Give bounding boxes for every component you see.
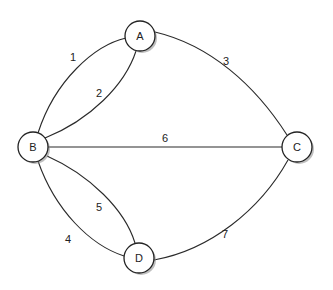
edge-7 [154, 160, 288, 260]
node-d-label: D [135, 252, 143, 264]
graph-diagram: 1 2 3 4 5 6 7 A B C D [0, 0, 333, 290]
edge-label-4: 4 [65, 233, 71, 245]
node-b-label: B [29, 141, 36, 153]
edge-label-5: 5 [96, 201, 102, 213]
node-a-label: A [136, 30, 144, 42]
edge-5 [47, 156, 135, 243]
edge-label-3: 3 [223, 55, 229, 67]
node-c: C [282, 132, 314, 164]
edge-1 [38, 38, 126, 133]
node-b: B [18, 132, 50, 164]
node-a: A [125, 21, 157, 53]
edge-label-2: 2 [96, 87, 102, 99]
edge-2 [45, 51, 136, 138]
edge-label-6: 6 [162, 132, 168, 144]
edge-label-1: 1 [70, 51, 76, 63]
node-d: D [124, 243, 156, 275]
node-c-label: C [293, 141, 301, 153]
edge-label-7: 7 [222, 228, 228, 240]
edge-3 [155, 32, 287, 135]
